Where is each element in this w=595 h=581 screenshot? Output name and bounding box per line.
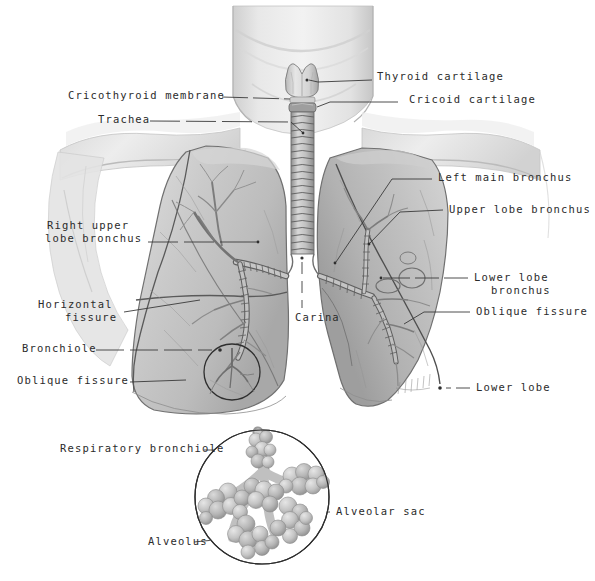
label-lower-lobe-bronchus: Lower lobe bronchus xyxy=(474,271,549,297)
label-oblique-fissure-left: Oblique fissure xyxy=(17,374,129,387)
label-lower-lobe: Lower lobe xyxy=(476,381,551,394)
label-respiratory-bronchiole: Respiratory bronchiole xyxy=(60,442,224,455)
label-left-main-bronchus: Left main bronchus xyxy=(438,171,573,184)
label-alveolus: Alveolus xyxy=(148,535,208,548)
figure-canvas: Thyroid cartilage Cricoid cartilage Cric… xyxy=(0,0,595,581)
trachea xyxy=(286,112,320,276)
label-right-upper-lobe-bronchus: Right upper lobe bronchus xyxy=(47,219,147,245)
label-oblique-fissure-right: Oblique fissure xyxy=(476,305,588,318)
left-lung xyxy=(317,148,448,406)
label-bronchiole: Bronchiole xyxy=(22,342,97,355)
label-alveolar-sac: Alveolar sac xyxy=(336,505,426,518)
label-carina: Carina xyxy=(295,311,340,324)
label-trachea: Trachea xyxy=(98,113,150,126)
right-lung xyxy=(132,146,289,414)
label-upper-lobe-bronchus: Upper lobe bronchus xyxy=(449,203,591,216)
label-cricothyroid-membrane: Cricothyroid membrane xyxy=(68,89,225,102)
label-horizontal-fissure: Horizontal fissure xyxy=(38,298,113,324)
label-cricoid-cartilage: Cricoid cartilage xyxy=(409,93,536,106)
